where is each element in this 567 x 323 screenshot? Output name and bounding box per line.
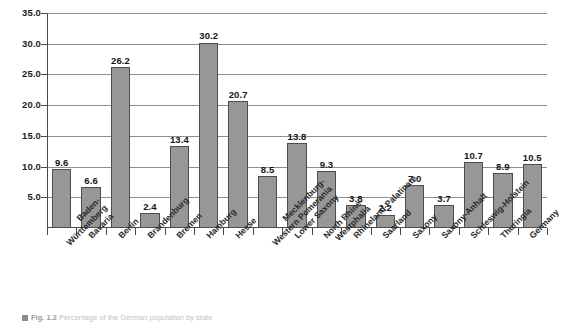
bar-slot — [223, 13, 252, 228]
bar-value-label: 13.8 — [288, 131, 307, 142]
bar-value-label: 9.3 — [320, 159, 334, 170]
figure-caption: Fig. 1.2 Percentage of the German popula… — [22, 313, 567, 323]
y-axis-tick-label: 20.0 — [5, 99, 41, 110]
bar — [52, 169, 71, 228]
bar-slot — [76, 13, 105, 228]
bar-slot — [518, 13, 547, 228]
bar-value-label: 10.5 — [523, 152, 542, 163]
bar-chart: 35.030.025.020.015.010.05.0 9.66.626.22.… — [0, 0, 567, 323]
bar-value-label: 20.7 — [229, 89, 248, 100]
bar-slot — [135, 13, 164, 228]
bar-value-label: 9.6 — [55, 157, 69, 168]
x-axis-labels: Baden-WürttembergBavariaBerlinBrandenbur… — [0, 234, 567, 320]
bar-value-label: 8.9 — [496, 161, 510, 172]
bar-slot — [106, 13, 135, 228]
figure-label: Fig. 1.2 — [31, 313, 57, 322]
bar — [199, 43, 218, 229]
bar — [111, 67, 130, 228]
bar-slot — [165, 13, 194, 228]
bar-value-label: 13.4 — [170, 134, 189, 145]
y-axis-tick-label: 10.0 — [5, 161, 41, 172]
figure-caption-text: Percentage of the German population by s… — [59, 313, 212, 322]
bar-value-label: 26.2 — [111, 55, 130, 66]
bar — [258, 176, 277, 228]
y-axis-tick-label: 15.0 — [5, 130, 41, 141]
y-axis-tick-label: 25.0 — [5, 68, 41, 79]
bar-value-label: 30.2 — [199, 30, 218, 41]
bar-series: 9.66.626.22.413.430.220.78.513.89.33.82.… — [47, 13, 547, 228]
bar-value-label: 10.7 — [464, 150, 483, 161]
bar-slot — [47, 13, 76, 228]
y-axis-tick-label: 30.0 — [5, 38, 41, 49]
bar-value-label: 6.6 — [84, 175, 98, 186]
bar-slot — [253, 13, 282, 228]
fig-marker-icon — [22, 315, 28, 321]
y-axis-tick-label: 35.0 — [5, 7, 41, 18]
bar-value-label: 2.4 — [143, 201, 157, 212]
bar-value-label: 8.5 — [261, 164, 275, 175]
y-axis-tick-label: 5.0 — [5, 191, 41, 202]
y-axis: 35.030.025.020.015.010.05.0 — [0, 0, 41, 240]
bar-slot — [194, 13, 223, 228]
bar-slot — [400, 13, 429, 228]
bar-value-label: 3.7 — [437, 193, 451, 204]
